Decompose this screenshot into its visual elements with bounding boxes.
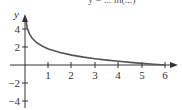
x-tick-label: 4 <box>115 69 121 81</box>
y-tick-label: −2 <box>8 77 20 89</box>
x-tick-label: 5 <box>139 69 145 81</box>
data-curve <box>26 22 165 65</box>
y-tick-label: 4 <box>15 23 21 35</box>
y-tick-label: 2 <box>15 41 21 53</box>
x-axis-arrow-icon <box>170 62 178 68</box>
x-tick-label: 6 <box>162 69 168 81</box>
x-tick-label: 3 <box>92 69 98 81</box>
y-tick-label: −4 <box>8 95 20 107</box>
chart-canvas: y = ... ln(...) y 1 2 3 4 5 6 4 2 −2 −4 <box>0 0 182 110</box>
x-tick-labels: 1 2 3 4 5 6 <box>45 69 168 81</box>
x-tick-label: 2 <box>68 69 74 81</box>
y-axis-arrow-icon <box>22 14 28 22</box>
x-tick-label: 1 <box>45 69 51 81</box>
chart-title-fragment: y = ... ln(...) <box>88 0 136 6</box>
y-axis-label: y <box>13 8 19 20</box>
